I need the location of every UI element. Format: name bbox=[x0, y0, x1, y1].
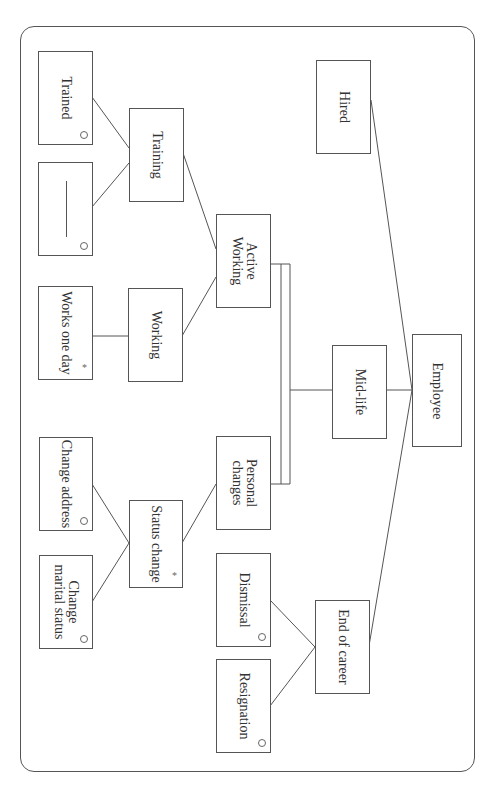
node-resignation: Resignation bbox=[216, 659, 271, 753]
node-not-trained bbox=[38, 162, 93, 256]
edge-active-working bbox=[182, 277, 216, 336]
node-label: Resignation bbox=[237, 673, 251, 740]
node-working: Working bbox=[128, 288, 183, 382]
edge-training-trained bbox=[92, 97, 129, 148]
node-active-working: Active Working bbox=[216, 214, 271, 308]
node-personal-changes: Personal changes bbox=[216, 436, 271, 530]
node-mid-life: Mid-life bbox=[332, 345, 387, 439]
edge-status-address bbox=[92, 484, 129, 543]
iteration-marker-icon: * bbox=[172, 571, 177, 581]
node-works-one-day: Works one day * bbox=[38, 286, 93, 380]
parallel-bracket bbox=[270, 264, 290, 484]
selection-marker-icon bbox=[80, 131, 88, 139]
node-hired: Hired bbox=[316, 60, 371, 154]
node-training: Training bbox=[129, 108, 184, 202]
node-label: Personal changes bbox=[230, 459, 258, 507]
selection-marker-icon bbox=[80, 517, 88, 525]
node-dismissal: Dismissal bbox=[216, 553, 271, 647]
edge-status-marital bbox=[92, 543, 129, 602]
node-employee: Employee bbox=[412, 334, 462, 447]
node-label: End of career bbox=[336, 609, 350, 684]
node-trained: Trained bbox=[38, 51, 93, 145]
selection-marker-icon bbox=[258, 633, 266, 641]
edge-training-blank bbox=[92, 163, 129, 207]
node-label: Mid-life bbox=[353, 369, 367, 416]
node-label: Status change bbox=[149, 505, 163, 582]
node-label: Dismissal bbox=[237, 572, 251, 627]
selection-marker-icon bbox=[258, 739, 266, 747]
node-label: Change marital status bbox=[52, 564, 80, 639]
selection-marker-icon bbox=[80, 242, 88, 250]
node-status-change: Status change * bbox=[129, 500, 183, 588]
null-component-line bbox=[66, 181, 67, 237]
iteration-marker-icon: * bbox=[82, 363, 87, 373]
node-label: Works one day bbox=[59, 291, 73, 375]
edge-end-resignation bbox=[270, 647, 315, 706]
node-end-of-career: End of career bbox=[315, 600, 370, 694]
selection-marker-icon bbox=[80, 635, 88, 643]
node-change-marital-status: Change marital status bbox=[39, 555, 93, 649]
edge-end-dismissal bbox=[270, 600, 315, 647]
node-label: Hired bbox=[337, 91, 351, 123]
node-label: Active Working bbox=[230, 237, 258, 286]
node-label: Change address bbox=[59, 440, 73, 528]
edge-active-training bbox=[183, 153, 216, 249]
node-label: Training bbox=[150, 131, 164, 179]
node-label: Trained bbox=[59, 76, 73, 119]
node-label: Employee bbox=[430, 362, 444, 419]
node-change-address: Change address bbox=[39, 437, 93, 531]
node-label: Working bbox=[149, 311, 163, 360]
edge-personal-status bbox=[182, 484, 216, 543]
